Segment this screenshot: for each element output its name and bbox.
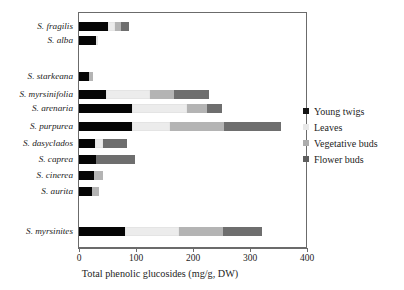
bar-segment [79, 122, 132, 131]
legend-swatch-icon [303, 108, 309, 114]
x-tick [250, 248, 251, 252]
bar-segment [96, 36, 98, 45]
x-tick [193, 248, 194, 252]
stacked-bar [79, 72, 93, 81]
bar-segment [89, 72, 93, 81]
x-tick-label: 300 [230, 253, 270, 264]
x-tick-label: 200 [173, 253, 213, 264]
bar-segment [96, 155, 135, 164]
x-tick [79, 248, 80, 252]
category-label: S. arenaria [32, 103, 73, 113]
phenolic-glucosides-chart: S. fragilisS. albaS. starkeanaS. myrsini… [0, 0, 404, 290]
bar-segment [79, 187, 92, 196]
x-tick [136, 248, 137, 252]
bar-segment [79, 139, 95, 148]
bar-segment [79, 22, 108, 31]
stacked-bars-layer [79, 12, 307, 248]
x-tick-label: 100 [116, 253, 156, 264]
chart-legend: Young twigsLeavesVegetative budsFlower b… [303, 103, 403, 167]
bar-segment [92, 187, 99, 196]
stacked-bar [79, 227, 262, 236]
legend-swatch-icon [303, 140, 309, 146]
stacked-bar [79, 90, 209, 99]
stacked-bar [79, 171, 103, 180]
bar-segment [79, 72, 89, 81]
bar-segment [79, 90, 106, 99]
bar-segment [79, 227, 125, 236]
x-tick-label: 0 [59, 253, 99, 264]
bar-segment [103, 139, 127, 148]
bar-segment [223, 227, 262, 236]
bar-segment [106, 90, 150, 99]
stacked-bar [79, 22, 129, 31]
bar-segment [79, 36, 96, 45]
stacked-bar [79, 122, 281, 131]
category-label: S. starkeana [28, 71, 73, 81]
stacked-bar [79, 104, 222, 113]
bar-segment [94, 171, 103, 180]
bar-segment [79, 155, 96, 164]
bar-segment [132, 122, 170, 131]
legend-item: Young twigs [303, 103, 403, 119]
x-tick-label: 400 [287, 253, 327, 264]
legend-label: Flower buds [314, 152, 364, 168]
category-label: S. caprea [39, 154, 73, 164]
legend-item: Leaves [303, 119, 403, 135]
category-label: S. fragilis [37, 21, 73, 31]
legend-swatch-icon [303, 124, 309, 130]
category-label: S. myrsinifolia [19, 89, 73, 99]
x-axis-title: Total phenolic glucosides (mg/g, DW) [0, 268, 320, 279]
stacked-bar [79, 187, 99, 196]
category-label: S. alba [47, 35, 73, 45]
stacked-bar [79, 155, 135, 164]
category-label: S. aurita [41, 186, 73, 196]
legend-label: Young twigs [314, 104, 364, 120]
category-label: S. cinerea [37, 170, 73, 180]
stacked-bar [79, 139, 127, 148]
legend-item: Vegetative buds [303, 135, 403, 151]
y-axis-category-labels: S. fragilisS. albaS. starkeanaS. myrsini… [0, 0, 76, 248]
bar-segment [224, 122, 280, 131]
bar-segment [187, 104, 207, 113]
bar-segment [121, 22, 129, 31]
bar-segment [79, 171, 94, 180]
bar-segment [174, 90, 209, 99]
bar-segment [132, 104, 187, 113]
bar-segment [95, 139, 103, 148]
legend-item: Flower buds [303, 151, 403, 167]
legend-label: Vegetative buds [314, 136, 378, 152]
bar-segment [108, 22, 115, 31]
category-label: S. purpurea [30, 121, 73, 131]
bar-segment [79, 104, 132, 113]
category-label: S. dasyclados [23, 138, 73, 148]
x-tick [307, 248, 308, 252]
legend-label: Leaves [314, 120, 342, 136]
category-label: S. myrsinites [26, 226, 73, 236]
bar-segment [170, 122, 225, 131]
bar-segment [150, 90, 174, 99]
bar-segment [179, 227, 223, 236]
legend-swatch-icon [303, 156, 309, 162]
bar-segment [207, 104, 222, 113]
stacked-bar [79, 36, 98, 45]
bar-segment [125, 227, 179, 236]
